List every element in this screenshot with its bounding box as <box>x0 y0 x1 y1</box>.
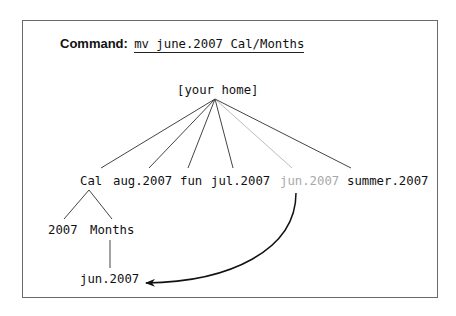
node-aug: aug.2007 <box>113 174 172 188</box>
edge-cal-months <box>89 190 112 219</box>
edge-home-fun <box>188 99 215 168</box>
edge-home-jun <box>215 99 292 168</box>
node-root: [your home] <box>177 83 258 97</box>
node-jun-old: jun.2007 <box>280 174 339 188</box>
node-cal: Cal <box>80 174 102 188</box>
node-jul: jul.2007 <box>211 174 270 188</box>
edge-cal-2007 <box>64 190 89 219</box>
node-months: Months <box>90 223 134 237</box>
edge-home-cal <box>101 99 215 168</box>
edge-home-jul <box>215 99 233 168</box>
move-arrow <box>146 193 296 283</box>
node-jun-new: jun.2007 <box>80 272 139 286</box>
node-summer: summer.2007 <box>347 174 428 188</box>
node-2007: 2007 <box>48 223 78 237</box>
node-fun: fun <box>180 174 202 188</box>
edge-home-summer <box>215 99 351 168</box>
tree-connectors <box>0 0 456 316</box>
